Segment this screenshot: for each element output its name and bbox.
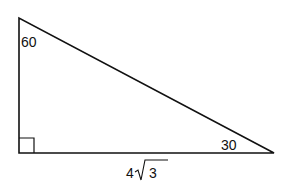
right-angle-marker [19,138,34,153]
triangle-diagram: 60 30 4 3 [0,0,291,194]
base-coefficient: 4 [126,165,134,181]
base-length-label: 4 3 [126,160,168,181]
angle-label-bottom-right: 30 [221,137,237,153]
base-radicand: 3 [149,165,157,181]
angle-label-top: 60 [21,34,37,50]
triangle [19,18,274,153]
